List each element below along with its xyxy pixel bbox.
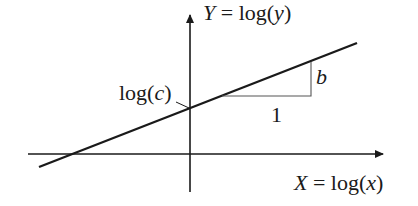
- intercept-leader-line: [176, 102, 189, 108]
- regression-line: [39, 43, 357, 167]
- x-axis-label: X = log(x): [294, 172, 383, 194]
- intercept-label: log(c): [119, 82, 172, 104]
- slope-rise-label: b: [316, 66, 327, 88]
- log-log-diagram: Y = log(y) log(c) b 1 X = log(x): [0, 0, 418, 206]
- y-axis-label: Y = log(y): [203, 2, 291, 24]
- slope-run-label: 1: [271, 104, 282, 126]
